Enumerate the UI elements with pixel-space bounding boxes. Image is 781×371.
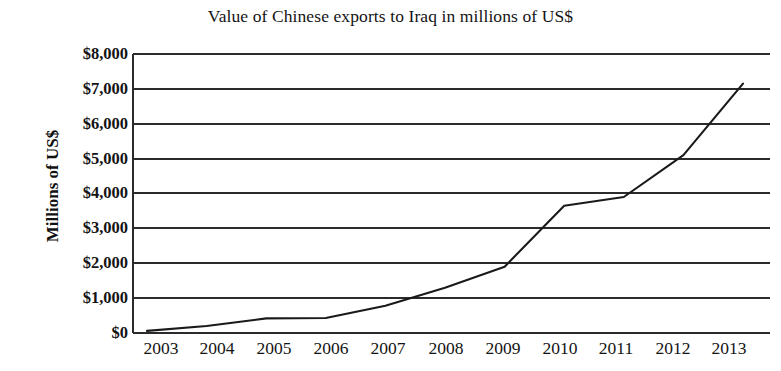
data-series-line <box>147 84 743 331</box>
x-tick-label: 2013 <box>694 338 764 359</box>
chart-figure: Value of Chinese exports to Iraq in mill… <box>0 0 781 371</box>
plot-area <box>0 0 781 371</box>
gridlines <box>133 54 770 298</box>
